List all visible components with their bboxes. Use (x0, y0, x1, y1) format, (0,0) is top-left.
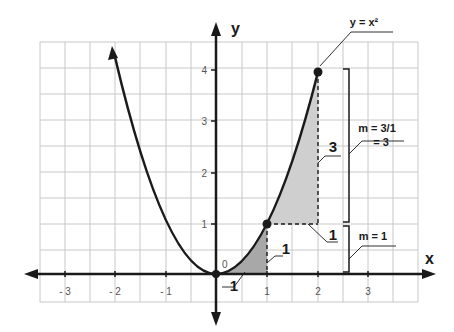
x-axis-arrow-right-icon (422, 269, 436, 279)
y-axis-arrow-down-icon (211, 312, 221, 326)
y-tick-label: 4 (201, 65, 207, 76)
slope-upper-label-line2: = 3 (373, 136, 389, 148)
bracket-lower (343, 226, 349, 272)
run-upper-label: 1 (329, 226, 337, 243)
run-lower-label: 1 (230, 277, 238, 294)
y-tick-label: 1 (201, 219, 207, 230)
x-tick-label: - 1 (160, 286, 172, 297)
y-axis-label: y (231, 20, 240, 37)
y-tick-label: 2 (201, 168, 207, 179)
x-tick-label: - 3 (59, 286, 71, 297)
y-axis-arrow-up-icon (211, 22, 221, 36)
x-tick-label: - 2 (109, 286, 121, 297)
rise-upper-label: 3 (329, 138, 337, 155)
parabola-slope-diagram: - 3 - 2 - 1 1 2 3 1 2 3 4 0 x y y = x² m… (0, 0, 454, 332)
slope-lower-label: m = 1 (359, 230, 387, 242)
rise-lower-label: 1 (282, 240, 290, 257)
origin-label: 0 (222, 259, 228, 270)
point-1-1 (263, 220, 272, 229)
curve-arrow-icon (108, 46, 118, 60)
slope-upper-label-line1: m = 3/1 (358, 122, 396, 134)
grid (40, 42, 418, 302)
x-tick-label: 2 (315, 286, 321, 297)
equation-label: y = x² (350, 16, 379, 28)
point-origin (212, 270, 220, 278)
x-axis-label: x (425, 250, 434, 267)
point-2-4 (314, 68, 323, 77)
x-tick-label: 3 (365, 286, 371, 297)
y-tick-label: 3 (201, 116, 207, 127)
x-axis-arrow-left-icon (24, 269, 38, 279)
x-tick-label: 1 (264, 286, 270, 297)
